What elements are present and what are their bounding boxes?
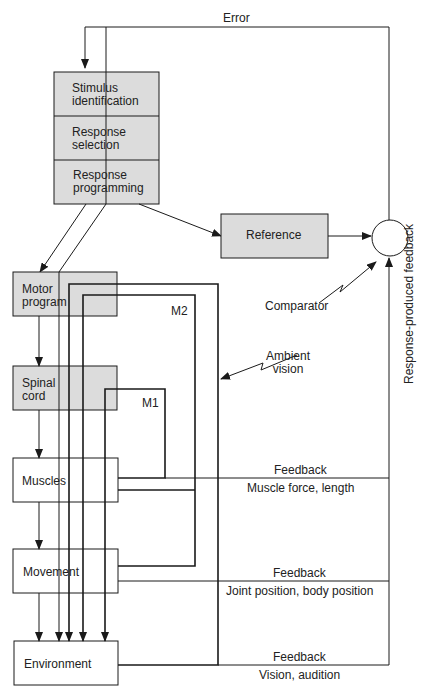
response-selection-label: Response selection — [72, 126, 126, 152]
stimulus-identification-label: Stimulus identification — [72, 82, 139, 108]
reference-label: Reference — [246, 229, 301, 242]
to-reference-arrow — [139, 204, 221, 236]
response-produced-feedback-label: Response-produced feedback — [402, 224, 416, 384]
label-line: programming — [73, 182, 144, 195]
m2-label: M2 — [171, 305, 188, 318]
muscles-label: Muscles — [22, 475, 66, 488]
feedback-3-detail: Vision, audition — [259, 669, 340, 682]
spinal-cord-label: Spinal cord — [22, 377, 55, 403]
environment-label: Environment — [24, 658, 91, 671]
comparator-label: Comparator — [265, 300, 328, 313]
motor-program-label: Motor program — [22, 283, 67, 309]
feedback-2-detail: Joint position, body position — [226, 585, 373, 598]
m1-label: M1 — [142, 397, 159, 410]
label-line: program — [22, 296, 67, 309]
ambient-vision-label: Ambient vision — [266, 350, 310, 376]
feedback-2-title: Feedback — [273, 567, 326, 580]
error-label: Error — [223, 12, 250, 25]
feedback-1-title: Feedback — [274, 464, 327, 477]
label-line: cord — [22, 390, 55, 403]
movement-label: Movement — [23, 566, 79, 579]
label-line: vision — [266, 363, 310, 376]
response-programming-label: Response programming — [73, 169, 144, 195]
label-line: identification — [72, 95, 139, 108]
m1-loop — [105, 389, 165, 641]
label-line: selection — [72, 139, 126, 152]
feedback-3-title: Feedback — [273, 651, 326, 664]
feedback-1-detail: Muscle force, length — [247, 482, 354, 495]
